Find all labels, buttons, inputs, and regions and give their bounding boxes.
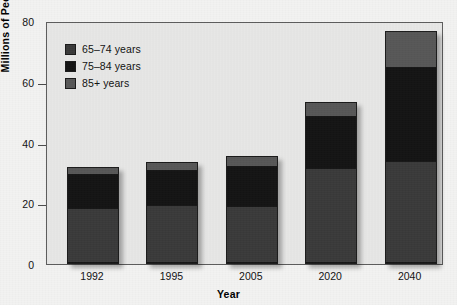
legend: 65–74 years 75–84 years 85+ years (65, 41, 141, 92)
bar-segment-85-plus-2040 (386, 32, 436, 68)
legend-item-85-plus: 85+ years (65, 75, 141, 91)
segment-divider (386, 262, 436, 263)
legend-label-85-plus: 85+ years (82, 77, 129, 89)
plot-area: 65–74 years 75–84 years 85+ years (46, 22, 443, 265)
stacked-bar-1995[interactable] (146, 162, 198, 264)
y-tick-20 (38, 205, 46, 206)
bar-segment-85-plus-1995 (147, 163, 197, 170)
y-tick-label-20: 20 (0, 199, 34, 209)
bar-segment-85-plus-2005 (227, 157, 277, 167)
stacked-bar-2005[interactable] (226, 156, 278, 264)
legend-label-75-84: 75–84 years (82, 60, 141, 72)
bar-segment-75-84-2020 (306, 117, 356, 169)
x-tick-label-2020: 2020 (290, 270, 370, 282)
bar-segment-75-84-1995 (147, 171, 197, 207)
stacked-bar-2020[interactable] (305, 102, 357, 264)
y-tick-40 (38, 145, 46, 146)
y-tick-60 (38, 84, 46, 85)
stacked-bar-1992[interactable] (67, 167, 119, 264)
bar-segment-65-74-2040 (386, 162, 436, 263)
y-tick-label-0: 0 (0, 260, 34, 270)
bar-segment-75-84-1992 (68, 175, 118, 209)
segment-divider (306, 262, 356, 263)
legend-swatch-65-74 (65, 44, 76, 55)
legend-swatch-75-84 (65, 61, 76, 72)
bar-segment-65-74-2005 (227, 207, 277, 263)
legend-item-75-84: 75–84 years (65, 58, 141, 74)
bar-segment-65-74-2020 (306, 169, 356, 263)
x-tick-label-2040: 2040 (370, 270, 450, 282)
legend-label-65-74: 65–74 years (82, 43, 141, 55)
x-tick-label-1992: 1992 (52, 270, 132, 282)
x-axis-title: Year (0, 288, 457, 300)
x-tick-label-1995: 1995 (131, 270, 211, 282)
y-tick-label-60: 60 (0, 78, 34, 88)
segment-divider (68, 262, 118, 263)
legend-swatch-85-plus (65, 78, 76, 89)
stacked-bar-2040[interactable] (385, 31, 437, 264)
bar-segment-75-84-2005 (227, 167, 277, 207)
bar-segment-65-74-1992 (68, 209, 118, 263)
y-tick-label-80: 80 (0, 17, 34, 27)
legend-item-65-74: 65–74 years (65, 41, 141, 57)
bar-segment-65-74-1995 (147, 206, 197, 263)
bar-segment-75-84-2040 (386, 68, 436, 162)
x-tick-label-2005: 2005 (211, 270, 291, 282)
bar-segment-85-plus-2020 (306, 103, 356, 117)
y-tick-label-40: 40 (0, 139, 34, 149)
bar-segment-85-plus-1992 (68, 168, 118, 175)
segment-divider (147, 262, 197, 263)
segment-divider (227, 262, 277, 263)
bar-chart-figure: Millions of People 020406080 65–74 years… (0, 0, 457, 305)
